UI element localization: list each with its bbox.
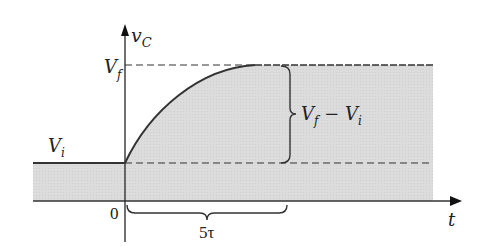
duration-label: 5τ — [199, 223, 215, 242]
voltage-axis-arrow-icon — [121, 24, 129, 36]
time-axis-arrow-icon — [450, 196, 462, 206]
vf-label: Vf — [104, 56, 124, 82]
origin-label: 0 — [110, 204, 119, 223]
y-axis-label: vC — [131, 24, 152, 50]
vi-label: Vi — [48, 135, 65, 160]
rc-transient-diagram: vC Vf Vi Vf − Vi 0 5τ t — [0, 0, 482, 246]
x-axis-label: t — [448, 209, 456, 230]
shaded-region — [33, 65, 433, 201]
duration-brace — [127, 205, 287, 220]
